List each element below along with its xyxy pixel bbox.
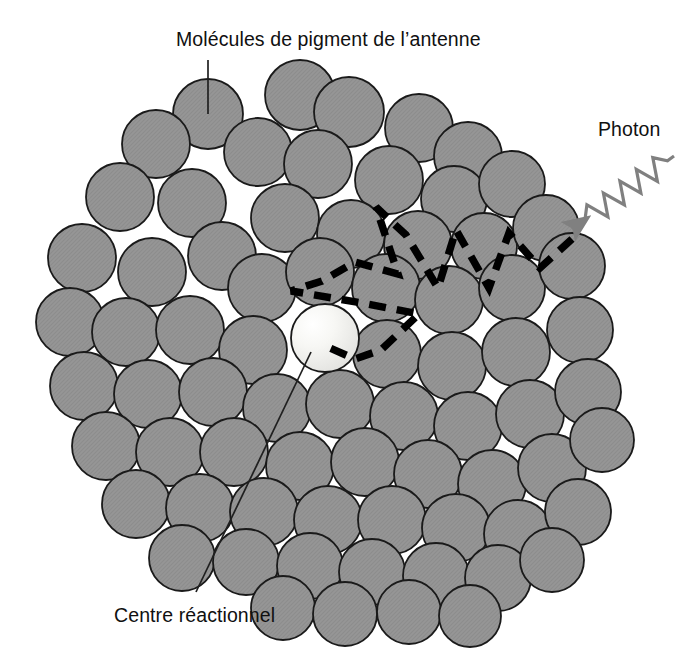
pigment-molecule xyxy=(313,582,377,646)
pigment-molecule xyxy=(520,528,584,592)
pigment-molecule xyxy=(102,470,170,538)
pigment-molecule xyxy=(377,580,441,644)
pigment-molecule xyxy=(118,238,186,306)
photon-label: Photon xyxy=(598,118,660,141)
pigment-molecule xyxy=(547,297,613,363)
diagram-canvas xyxy=(0,0,700,653)
pigment-molecule xyxy=(418,332,486,400)
photon-wave-arrow xyxy=(572,156,674,229)
pigment-molecule xyxy=(224,118,292,186)
reaction-center-molecule xyxy=(291,304,359,372)
pigment-molecule xyxy=(50,352,118,420)
pigment-molecule xyxy=(415,266,483,334)
pigment-molecule xyxy=(179,358,247,426)
reaction-center-label: Centre réactionnel xyxy=(114,604,275,627)
pigment-molecule xyxy=(228,254,296,322)
pigment-molecule xyxy=(156,296,224,364)
pigment-molecule xyxy=(482,318,550,386)
pigment-molecule xyxy=(149,525,215,591)
antenna-pigment-label: Molécules de pigment de l’antenne xyxy=(176,28,481,51)
pigment-molecule xyxy=(48,224,116,292)
pigment-molecule xyxy=(92,298,160,366)
pigment-molecule xyxy=(570,408,634,472)
pigment-molecule xyxy=(86,163,154,231)
antenna-complex-figure: Molécules de pigment de l’antenne Photon… xyxy=(0,0,700,653)
pigment-molecule xyxy=(439,585,501,647)
